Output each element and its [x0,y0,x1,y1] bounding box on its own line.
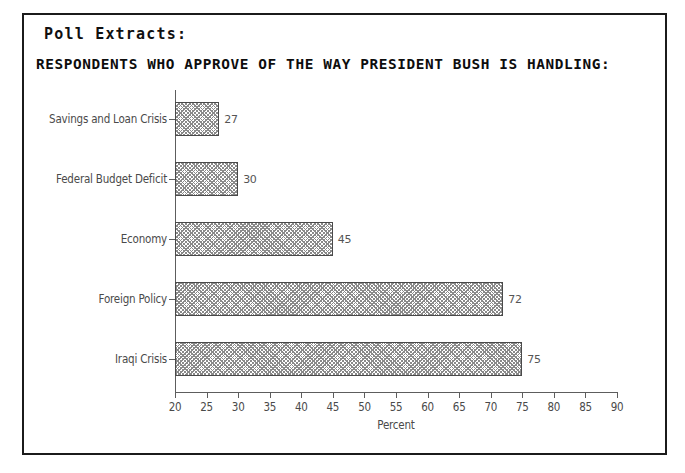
y-axis-tick [169,179,175,180]
x-axis-tick [459,392,460,398]
y-axis-label-row: Iraqi Crisis [24,342,167,376]
bar-value-label: 30 [243,173,256,186]
y-axis-label-row: Foreign Policy [24,282,167,316]
y-axis-label: Iraqi Crisis [115,352,167,366]
x-axis-tick [207,392,208,398]
x-axis-tick-label: 30 [232,400,245,414]
x-axis-tick [364,392,365,398]
x-axis-tick [396,392,397,398]
y-axis-label-row: Federal Budget Deficit [24,162,167,196]
x-axis-tick-label: 35 [263,400,276,414]
x-axis-tick [428,392,429,398]
x-axis-tick [585,392,586,398]
bar-value-label: 45 [338,233,351,246]
x-axis-tick [522,392,523,398]
x-axis-tick [333,392,334,398]
bar-federal-budget-deficit[interactable] [175,162,238,196]
y-axis-label-row: Economy [24,222,167,256]
x-axis-tick-label: 40 [295,400,308,414]
y-axis-tick [169,239,175,240]
x-axis-tick-label: 80 [548,400,561,414]
y-axis-tick [169,359,175,360]
x-axis-tick-label: 70 [484,400,497,414]
bar-row[interactable]: 45 [175,222,373,256]
y-axis-label: Federal Budget Deficit [56,172,167,186]
x-axis-tick-label: 65 [453,400,466,414]
y-axis-label-row: Savings and Loan Crisis [24,102,167,136]
plot-area: 2730457275 Savings and Loan CrisisFedera… [24,15,665,453]
y-axis-label: Foreign Policy [99,292,167,306]
x-axis-tick [270,392,271,398]
x-axis-tick-label: 25 [200,400,213,414]
bar-value-label: 72 [508,293,521,306]
y-axis-label: Economy [121,232,167,246]
x-axis-tick [491,392,492,398]
x-axis-tick-label: 50 [358,400,371,414]
bar-value-label: 75 [527,353,540,366]
bar-iraqi-crisis[interactable] [175,342,522,376]
x-axis-tick [238,392,239,398]
x-axis-tick-label: 75 [516,400,529,414]
x-axis-tick-label: 85 [579,400,592,414]
bar-savings-and-loan-crisis[interactable] [175,102,219,136]
y-axis-label: Savings and Loan Crisis [49,112,167,126]
x-axis-tick-label: 55 [390,400,403,414]
chart-frame: Poll Extracts: RESPONDENTS WHO APPROVE O… [22,13,667,455]
x-axis-title: Percent [175,418,617,432]
x-axis-tick-label: 20 [169,400,182,414]
x-axis-tick [301,392,302,398]
x-axis-tick [554,392,555,398]
bar-row[interactable]: 72 [175,282,543,316]
bar-row[interactable]: 75 [175,342,562,376]
x-axis-tick [175,392,176,398]
y-axis-tick [169,299,175,300]
x-axis-tick-label: 90 [611,400,624,414]
bar-value-label: 27 [224,113,237,126]
x-axis-tick [617,392,618,398]
bar-foreign-policy[interactable] [175,282,503,316]
x-axis-tick-label: 60 [421,400,434,414]
x-axis-tick-label: 45 [327,400,340,414]
y-axis-tick [169,119,175,120]
bar-row[interactable]: 30 [175,162,278,196]
bar-economy[interactable] [175,222,333,256]
bar-row[interactable]: 27 [175,102,259,136]
